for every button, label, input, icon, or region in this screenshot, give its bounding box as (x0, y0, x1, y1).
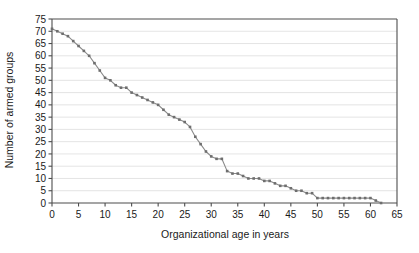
y-tick-label: 15 (35, 161, 47, 172)
x-tick-label: 30 (206, 209, 218, 220)
y-tick-label: 45 (35, 87, 47, 98)
x-tick-label: 35 (232, 209, 244, 220)
y-axis-tick-labels: 051015202530354045505560657075 (35, 14, 47, 209)
x-tick-label: 20 (153, 209, 165, 220)
y-tick-label: 35 (35, 112, 47, 123)
y-tick-label: 65 (35, 38, 47, 49)
x-tick-label: 0 (49, 209, 55, 220)
plot-frame (52, 19, 397, 203)
line-chart: 051015202530354045505560657075 051015202… (0, 0, 419, 253)
y-tick-label: 40 (35, 99, 47, 110)
chart-figure: 051015202530354045505560657075 051015202… (0, 0, 419, 253)
y-tick-label: 60 (35, 50, 47, 61)
data-series-markers (51, 28, 383, 205)
x-axis-title: Organizational age in years (161, 228, 289, 240)
x-tick-label: 5 (76, 209, 82, 220)
y-tick-label: 10 (35, 173, 47, 184)
y-tick-label: 25 (35, 136, 47, 147)
x-tick-label: 55 (338, 209, 350, 220)
x-tick-label: 50 (312, 209, 324, 220)
x-axis-tick-labels: 05101520253035404550556065 (49, 209, 403, 220)
y-tick-label: 20 (35, 149, 47, 160)
y-tick-label: 0 (40, 198, 46, 209)
grid-lines (52, 31, 397, 190)
y-tick-label: 55 (35, 63, 47, 74)
y-tick-label: 75 (35, 14, 47, 25)
y-tick-label: 30 (35, 124, 47, 135)
x-tick-label: 60 (365, 209, 377, 220)
data-series-line (52, 29, 381, 203)
x-tick-label: 45 (285, 209, 297, 220)
x-tick-label: 15 (126, 209, 138, 220)
y-tick-label: 70 (35, 26, 47, 37)
y-axis-title: Number of armed groups (3, 52, 15, 169)
x-tick-label: 40 (259, 209, 271, 220)
x-tick-label: 65 (391, 209, 403, 220)
x-tick-label: 25 (179, 209, 191, 220)
x-tick-label: 10 (100, 209, 112, 220)
y-tick-label: 5 (40, 185, 46, 196)
y-tick-label: 50 (35, 75, 47, 86)
